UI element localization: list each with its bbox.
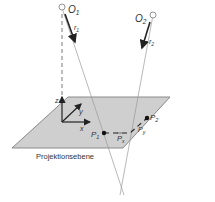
p1-point-icon (102, 131, 106, 135)
o2-point-icon (150, 12, 156, 18)
py-label: Py (138, 126, 146, 135)
o2-label: O2 (135, 13, 147, 25)
r2-label: r2 (149, 38, 154, 47)
projection-plane-label: Projektionsebene (30, 152, 100, 161)
z-axis-label: z (54, 97, 59, 104)
r1-label: r1 (74, 24, 79, 33)
x-axis-label: x (79, 125, 84, 132)
o1-label: O1 (68, 4, 80, 16)
o1-point-icon (59, 4, 65, 10)
p2-label: P2 (150, 113, 158, 123)
stereo-projection-diagram: O1 O2 r1 r2 z y x P1 P2 Px Py (0, 0, 215, 202)
projection-plane (12, 97, 170, 148)
p2-point-icon (145, 116, 149, 120)
